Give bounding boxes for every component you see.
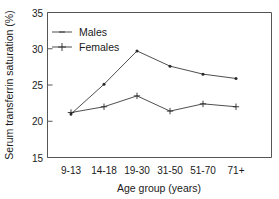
chart-figure: 35 30 25 20 15 9-13 14-18 19-30 31-50 51…	[0, 0, 279, 199]
data-point-marker	[202, 73, 205, 76]
x-axis-title: Age group (years)	[117, 182, 201, 194]
y-tick-label-25: 25	[32, 80, 44, 91]
x-tick-label-4: 51-70	[190, 165, 216, 176]
legend-item-males[interactable]: Males	[52, 26, 107, 38]
data-point-marker	[235, 77, 238, 80]
x-tick-label-3: 31-50	[157, 165, 183, 176]
line-chart: 35 30 25 20 15 9-13 14-18 19-30 31-50 51…	[0, 0, 279, 199]
data-series-layer	[68, 49, 239, 115]
data-point-marker	[103, 83, 106, 86]
x-tick-labels: 9-13 14-18 19-30 31-50 51-70 71+	[61, 165, 245, 176]
y-tick-label-20: 20	[32, 116, 44, 127]
y-tick-label-35: 35	[32, 8, 44, 19]
legend-item-females[interactable]: Females	[52, 41, 119, 53]
x-tick-label-5: 71+	[228, 165, 245, 176]
x-tick-label-0: 9-13	[61, 165, 81, 176]
x-tick-label-1: 14-18	[91, 165, 117, 176]
y-tick-marks	[48, 13, 53, 158]
series-line-females	[71, 96, 236, 113]
y-axis-title: Serum transferrin saturation (%)	[3, 10, 15, 159]
legend-label-females: Females	[79, 41, 119, 53]
data-point-marker	[169, 65, 172, 68]
y-tick-labels: 35 30 25 20 15	[32, 8, 44, 164]
y-tick-label-15: 15	[32, 153, 44, 164]
legend: Males Females	[52, 26, 119, 53]
y-tick-label-30: 30	[32, 44, 44, 55]
series-females	[68, 93, 239, 116]
legend-label-males: Males	[79, 26, 107, 38]
series-males	[70, 49, 238, 115]
data-point-marker	[136, 49, 139, 52]
x-tick-label-2: 19-30	[124, 165, 150, 176]
